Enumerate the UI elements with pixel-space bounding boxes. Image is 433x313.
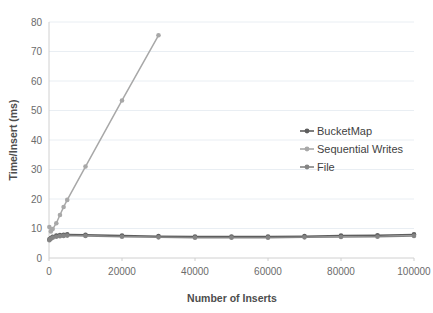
data-point [120, 234, 125, 239]
data-point [229, 235, 234, 240]
legend-marker-dot [305, 165, 310, 170]
series-line-sequential-writes [49, 35, 158, 231]
data-point [156, 33, 161, 38]
line-chart-plot: 01020304050607080 0200004000060000800001… [0, 0, 433, 313]
y-axis-title: Time/Insert (ms) [7, 100, 19, 181]
chart-legend: BucketMapSequential WritesFile [300, 125, 404, 173]
x-tick-label: 100000 [397, 266, 431, 277]
data-point [266, 235, 271, 240]
x-tick-label: 40000 [181, 266, 209, 277]
data-point [302, 235, 307, 240]
data-point [83, 164, 88, 169]
legend-label[interactable]: File [317, 161, 335, 173]
data-point [50, 227, 55, 232]
y-tick-label: 10 [31, 223, 43, 234]
x-tick-label: 0 [46, 266, 52, 277]
data-point [65, 233, 70, 238]
y-tick-label: 70 [31, 46, 43, 57]
legend-label[interactable]: BucketMap [317, 125, 372, 137]
chart-title [100, 0, 320, 4]
x-tick-label: 60000 [254, 266, 282, 277]
data-series-group [47, 33, 416, 243]
data-point [83, 234, 88, 239]
data-point [339, 235, 344, 240]
data-point [61, 205, 66, 210]
legend-marker-dot [305, 129, 310, 134]
data-point [412, 234, 417, 239]
y-axis-tick-labels: 01020304050607080 [31, 17, 43, 264]
y-tick-label: 40 [31, 135, 43, 146]
data-point [193, 235, 198, 240]
data-point [375, 234, 380, 239]
x-tick-label: 80000 [327, 266, 355, 277]
x-axis-title: Number of Inserts [187, 292, 277, 304]
y-tick-label: 60 [31, 76, 43, 87]
x-axis-tick-labels: 020000400006000080000100000 [46, 266, 431, 277]
y-tick-label: 50 [31, 105, 43, 116]
data-point [54, 221, 59, 226]
x-tick-label: 20000 [108, 266, 136, 277]
data-point [156, 235, 161, 240]
chart-container: 01020304050607080 0200004000060000800001… [0, 0, 433, 313]
y-tick-label: 20 [31, 194, 43, 205]
legend-marker-dot [305, 147, 310, 152]
y-tick-label: 0 [36, 253, 42, 264]
data-point [58, 213, 63, 218]
axis-lines [49, 22, 414, 261]
y-tick-label: 30 [31, 164, 43, 175]
y-tick-label: 80 [31, 17, 43, 28]
data-point [120, 98, 125, 103]
data-point [65, 198, 70, 203]
legend-label[interactable]: Sequential Writes [317, 143, 404, 155]
